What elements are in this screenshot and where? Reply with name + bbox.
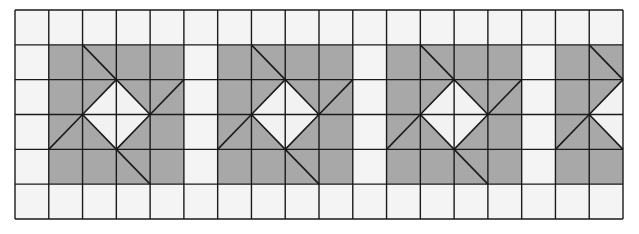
tiling-grid <box>0 0 639 234</box>
pattern-diagram <box>0 0 639 234</box>
